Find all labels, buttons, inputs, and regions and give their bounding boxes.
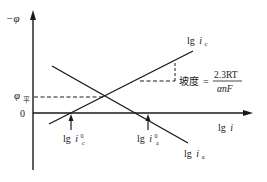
cathodic-exchange-label: lg i 0 c (63, 129, 86, 146)
cathodic-exchange-arrow (69, 114, 74, 130)
arrow-up-icon (69, 114, 74, 121)
anodic-curve-label: lg i a (184, 148, 206, 161)
zero-label: 0 (20, 108, 25, 119)
slope-equals: = (203, 76, 209, 87)
anodic-tafel-line (52, 66, 188, 143)
arrow-up-icon (146, 114, 151, 121)
x-axis-label: lg i (218, 122, 233, 133)
slope-denominator: αnF (217, 84, 233, 94)
equilibrium-potential-label: φ 平 (14, 89, 30, 104)
slope-label: 坡度 (179, 75, 199, 87)
cathodic-curve-label: lg i c (187, 35, 208, 48)
tafel-diagram: −φ lg i 0 φ 平 lg i c lg i a (0, 0, 267, 182)
x-axis-arrow-icon (243, 110, 253, 116)
slope-annotation: 坡度 = 2.3RT αnF (179, 70, 242, 94)
y-axis-label: −φ (6, 12, 20, 24)
slope-numerator: 2.3RT (214, 70, 238, 80)
y-axis-arrow-icon (30, 10, 36, 20)
y-axis (30, 10, 36, 170)
slope-triangle (140, 63, 175, 81)
anodic-exchange-label: lg i 0 a (137, 129, 160, 146)
